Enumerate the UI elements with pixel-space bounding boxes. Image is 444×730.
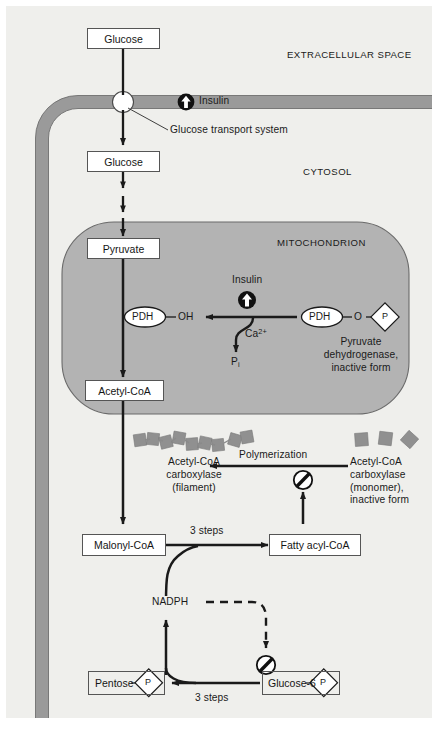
pdh-inactive-label: PDH [309,311,330,322]
insulin-up-arrow-icon-mito [238,291,256,309]
pdh-caption-line-1: Pyruvate [305,336,417,349]
carboxylase-filament-icon [133,430,254,452]
monomer-caption-line-3: (monomer), [350,482,436,495]
arrow-nadph-feedback-dashed [206,602,266,648]
glucose-cytosolic-box: Glucose [87,151,160,172]
inorganic-phosphate-label: Pi [231,356,240,369]
pdh-inactive-phosphate-glyph: P [382,311,388,321]
extracellular-space-label: EXTRACELLULAR SPACE [287,50,412,61]
pdh-inactive-caption: Pyruvate dehydrogenase, inactive form [305,336,417,374]
monomer-caption-line-2: carboxylase [350,469,436,482]
mitochondrion-label: MITOCHONDRION [277,238,366,249]
pyruvate-box: Pyruvate [87,238,160,259]
pentose-phosphate-p-glyph: P [145,677,151,687]
glucose-transport-system-label: Glucose transport system [170,124,288,135]
pdh-inactive-oxygen-label: O [354,311,362,322]
pdh-active-hydroxyl-label: OH [178,311,193,322]
monomer-caption-line-1: Acetyl-CoA [350,456,436,469]
glucose-extracellular-box: Glucose [87,28,160,49]
pentose-phosphate-box: Pentose [88,671,165,695]
cytosol-label: CYTOSOL [303,167,352,178]
pi-subscript: i [238,360,240,369]
filament-caption-line-1: Acetyl-CoA [135,456,253,469]
insulin-up-arrow-icon-membrane [178,94,195,111]
glucose6-phosphate-p-glyph: P [320,677,326,687]
filament-caption-line-2: carboxylase [135,469,253,482]
figure-canvas: inhibition --> Glucose-6 pathway ===== -… [0,0,444,730]
carboxylase-filament-caption: Acetyl-CoA carboxylase (filament) [135,456,253,494]
pi-symbol: P [231,356,238,367]
pdh-caption-line-3: inactive form [305,362,417,375]
mito-insulin-label: Insulin [232,274,262,285]
carboxylase-monomer-icon [355,430,419,448]
inhibition-no-sign-icon-polymerization [294,471,312,489]
three-steps-pentose-pathway-label: 3 steps [195,692,229,703]
transporter-leader-line [128,108,168,130]
pdh-active-label: PDH [132,311,153,322]
three-steps-fatty-synthesis-label: 3 steps [190,525,224,536]
malonyl-coa-box: Malonyl-CoA [82,534,166,556]
carboxylase-monomer-caption: Acetyl-CoA carboxylase (monomer), inacti… [350,456,436,507]
curve-pentose-pathway-to-nadph [166,668,196,683]
calcium-ion-label: Ca2+ [245,328,267,340]
membrane-insulin-label: Insulin [199,95,229,106]
nadph-label: NADPH [150,596,190,607]
glucose-6-phosphate-box: Glucose-6 [262,671,340,695]
curve-nadph-into-fatty-synthesis [166,546,198,602]
pdh-caption-line-2: dehydrogenase, [305,349,417,362]
acetyl-coa-box: Acetyl-CoA [85,380,164,401]
calcium-symbol: Ca [245,328,258,339]
polymerization-label: Polymerization [239,449,307,460]
calcium-charge: 2+ [258,327,267,336]
filament-caption-line-3: (filament) [135,482,253,495]
monomer-caption-line-4: inactive form [350,494,436,507]
pentose-label: Pentose [95,677,134,689]
fatty-acyl-coa-box: Fatty acyl-CoA [269,534,361,556]
glucose-6-label: Glucose-6 [268,677,316,689]
